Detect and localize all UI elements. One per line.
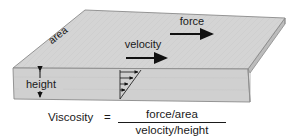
formula-equals: =: [104, 111, 111, 123]
formula-numerator: force/area: [146, 108, 198, 120]
viscosity-formula: Viscosity = force/area velocity/height: [48, 108, 226, 136]
formula-denominator: velocity/height: [136, 124, 210, 136]
label-force: force: [180, 15, 204, 27]
label-velocity: velocity: [125, 38, 162, 50]
viscosity-diagram: area force velocity height Viscosity = f…: [0, 0, 295, 138]
formula-lhs: Viscosity: [48, 111, 93, 123]
label-height: height: [26, 78, 56, 90]
